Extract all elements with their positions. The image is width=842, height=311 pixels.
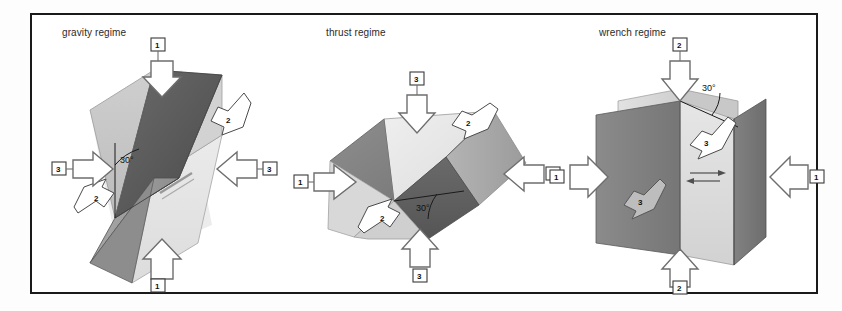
svg-text:3: 3 — [267, 165, 272, 174]
svg-text:1: 1 — [554, 173, 559, 182]
thrust-regime-block-diagram: 30° 2 2 3 — [294, 15, 562, 296]
svg-text:2: 2 — [94, 194, 99, 203]
angle-label-thrust: 30° — [416, 203, 430, 213]
panel-gravity-regime: gravity regime — [32, 15, 294, 296]
gravity-regime-block-diagram: 30° 2 2 — [32, 15, 294, 296]
svg-text:1: 1 — [155, 41, 160, 50]
stress-arrow-1-right: 1 — [770, 157, 824, 197]
angle-label-gravity: 30° — [120, 155, 134, 165]
svg-text:2: 2 — [380, 214, 385, 223]
svg-text:3: 3 — [56, 165, 61, 174]
stress-arrow-3-right: 3 — [217, 152, 277, 186]
svg-text:1: 1 — [155, 282, 160, 291]
svg-text:3: 3 — [704, 139, 709, 148]
angle-label-wrench: 30° — [702, 83, 716, 93]
wrench-regime-block-diagram: 30° 3 3 — [562, 15, 820, 296]
svg-text:1: 1 — [298, 178, 303, 187]
svg-text:2: 2 — [677, 41, 682, 50]
svg-text:1: 1 — [814, 173, 819, 182]
figure-canvas: gravity regime — [0, 0, 842, 311]
panel-thrust-regime: thrust regime — [294, 15, 562, 296]
svg-text:3: 3 — [417, 272, 422, 281]
svg-text:2: 2 — [466, 119, 471, 128]
svg-text:2: 2 — [677, 284, 682, 293]
svg-text:3: 3 — [414, 75, 419, 84]
panel-wrench-regime: wrench regime — [562, 15, 820, 296]
svg-text:3: 3 — [638, 198, 643, 207]
figure-frame: gravity regime — [30, 13, 818, 294]
svg-text:2: 2 — [226, 116, 231, 125]
